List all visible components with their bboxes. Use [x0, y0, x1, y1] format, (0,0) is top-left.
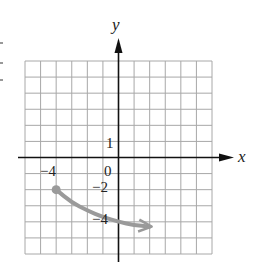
x-axis-label: x	[238, 148, 246, 165]
x-axis-arrow-icon	[219, 154, 234, 162]
edge-mark	[0, 42, 3, 44]
start-point-dot-icon	[52, 185, 61, 194]
coordinate-plane	[0, 0, 260, 270]
tick-label-x-neg4: −4	[40, 164, 56, 179]
axes	[18, 38, 234, 262]
tick-label-origin: 0	[104, 164, 112, 179]
tick-label-y-1: 1	[106, 136, 114, 151]
edge-mark	[0, 79, 3, 81]
y-axis-arrow-icon	[115, 38, 123, 53]
edge-mark	[0, 62, 3, 64]
tick-label-y-neg4: −4	[92, 212, 108, 227]
y-axis-label: y	[112, 16, 120, 33]
tick-label-y-neg2: −2	[92, 180, 108, 195]
